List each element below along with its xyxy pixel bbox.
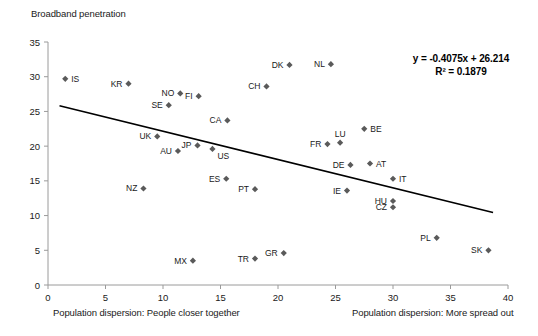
trendline	[60, 106, 494, 213]
data-point-marker	[434, 235, 440, 241]
data-point-marker	[367, 160, 373, 166]
data-point-label: PL	[420, 233, 431, 243]
data-point-label: SK	[471, 245, 483, 255]
data-point-label: FI	[185, 91, 193, 101]
data-point-label: DE	[333, 160, 345, 170]
data-point-label: GR	[265, 248, 278, 258]
data-point-marker	[154, 133, 160, 139]
y-axis-tick-label: 15	[29, 175, 40, 186]
data-point-label: IE	[333, 186, 341, 196]
data-point-marker	[281, 250, 287, 256]
x-axis-tick-label: 35	[445, 292, 456, 303]
data-point-marker	[209, 146, 215, 152]
data-point-label: UK	[139, 131, 151, 141]
x-axis-tick-label: 15	[215, 292, 226, 303]
plot-area: 051015202530350510152025303540ISKRNOFISE…	[0, 0, 538, 336]
data-point-label: PT	[238, 184, 249, 194]
y-axis-tick-label: 5	[35, 245, 40, 256]
data-point-label: NO	[162, 88, 175, 98]
data-point-marker	[166, 102, 172, 108]
r-squared-value: R² = 0.1879	[397, 65, 525, 78]
y-axis-tick-label: 25	[29, 106, 40, 117]
y-axis-tick-label: 0	[35, 280, 40, 291]
data-point-label: JP	[182, 140, 192, 150]
data-point-marker	[390, 198, 396, 204]
data-point-label: US	[217, 151, 229, 161]
data-point-label: KR	[111, 79, 123, 89]
data-point-label: ES	[209, 174, 221, 184]
data-point-marker	[347, 162, 353, 168]
y-axis-tick-label: 30	[29, 71, 40, 82]
data-point-marker	[390, 176, 396, 182]
data-point-marker	[324, 141, 330, 147]
x-axis-tick-label: 30	[388, 292, 399, 303]
x-axis-tick-label: 25	[330, 292, 341, 303]
trendline-equation-annotation: y = -0.4075x + 26.214 R² = 0.1879	[397, 52, 525, 78]
data-point-marker	[390, 204, 396, 210]
data-point-marker	[62, 76, 68, 82]
data-point-marker	[125, 81, 131, 87]
data-point-marker	[190, 258, 196, 264]
data-point-label: FR	[310, 139, 321, 149]
scatter-chart: Broadband penetration 051015202530350510…	[0, 0, 538, 336]
data-point-label: AT	[376, 159, 386, 169]
regression-equation: y = -0.4075x + 26.214	[397, 52, 525, 65]
x-axis-tick-label: 0	[45, 292, 50, 303]
data-point-marker	[223, 176, 229, 182]
data-point-marker	[485, 247, 491, 253]
data-point-marker	[252, 256, 258, 262]
data-point-label: LU	[335, 129, 346, 139]
x-axis-title-left: Population dispersion: People closer tog…	[53, 307, 240, 318]
y-axis-tick-label: 10	[29, 210, 40, 221]
data-point-label: TR	[238, 254, 249, 264]
data-point-label: IT	[399, 174, 407, 184]
data-point-label: NZ	[126, 183, 137, 193]
x-axis-title-right: Population dispersion: More spread out	[352, 307, 514, 318]
data-point-marker	[175, 148, 181, 154]
data-point-marker	[328, 61, 334, 67]
data-point-marker	[196, 93, 202, 99]
y-axis-tick-label: 35	[29, 37, 40, 48]
data-point-label: DK	[272, 60, 284, 70]
data-point-label: CA	[210, 115, 222, 125]
data-point-label: IS	[71, 74, 79, 84]
data-point-marker	[286, 62, 292, 68]
y-axis-tick-label: 20	[29, 141, 40, 152]
data-point-label: AU	[160, 146, 172, 156]
data-point-label: CZ	[376, 202, 387, 212]
x-axis-tick-label: 40	[503, 292, 514, 303]
data-point-marker	[177, 90, 183, 96]
data-point-marker	[252, 186, 258, 192]
data-point-label: SE	[151, 100, 163, 110]
x-axis-tick-label: 20	[273, 292, 284, 303]
x-axis-tick-label: 5	[103, 292, 108, 303]
data-point-label: NL	[314, 59, 325, 69]
data-point-marker	[361, 126, 367, 132]
data-point-marker	[224, 117, 230, 123]
data-point-marker	[337, 140, 343, 146]
data-point-marker	[140, 185, 146, 191]
data-point-marker	[263, 83, 269, 89]
data-point-marker	[194, 142, 200, 148]
data-point-label: CH	[248, 81, 260, 91]
data-point-label: MX	[174, 256, 187, 266]
data-point-marker	[344, 187, 350, 193]
data-point-label: BE	[370, 124, 382, 134]
x-axis-tick-label: 10	[158, 292, 169, 303]
